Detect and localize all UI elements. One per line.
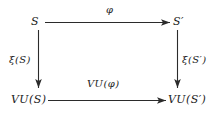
edge-label-bottom: VU(φ): [87, 79, 119, 89]
edge-label-right: ξ(S′): [182, 55, 206, 65]
node-bottom-left: VU(S): [11, 94, 46, 105]
edge-label-top: φ: [106, 5, 113, 15]
node-bottom-right: VU(S′): [168, 94, 206, 105]
arrow-top: [45, 19, 170, 26]
arrow-right: [174, 30, 181, 88]
arrow-left: [35, 30, 42, 88]
node-top-right: S′: [173, 16, 184, 27]
commutative-diagram: S S′ VU(S) VU(S′) φ ξ(S) ξ(S′) VU(φ): [0, 0, 218, 116]
node-top-left: S: [31, 16, 39, 27]
arrow-bottom: [48, 97, 166, 104]
edge-label-left: ξ(S): [9, 55, 31, 65]
